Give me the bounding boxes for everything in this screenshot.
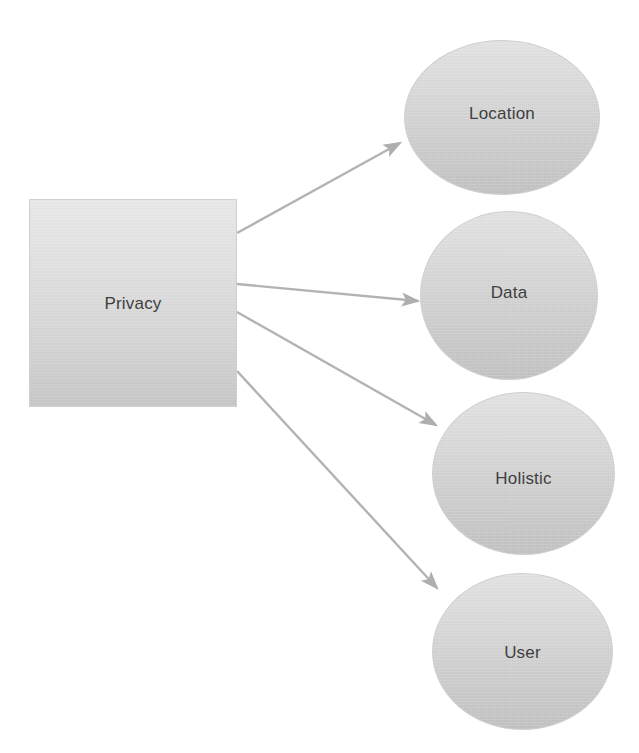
edge-privacy-data [237, 284, 418, 301]
edge-privacy-user [237, 371, 437, 588]
node-holistic[interactable]: Holistic [432, 392, 615, 555]
node-user-label: User [504, 644, 541, 661]
node-privacy[interactable]: Privacy [29, 199, 237, 407]
diagram-canvas: Privacy Location Data Holistic User [0, 0, 639, 753]
node-privacy-label: Privacy [104, 295, 161, 312]
node-user[interactable]: User [432, 573, 613, 730]
node-location-label: Location [469, 105, 535, 122]
node-data[interactable]: Data [420, 211, 598, 380]
node-location[interactable]: Location [404, 40, 600, 195]
node-holistic-label: Holistic [495, 470, 551, 487]
edge-privacy-holistic [237, 312, 436, 425]
node-data-label: Data [491, 284, 528, 301]
edge-privacy-location [237, 143, 400, 233]
